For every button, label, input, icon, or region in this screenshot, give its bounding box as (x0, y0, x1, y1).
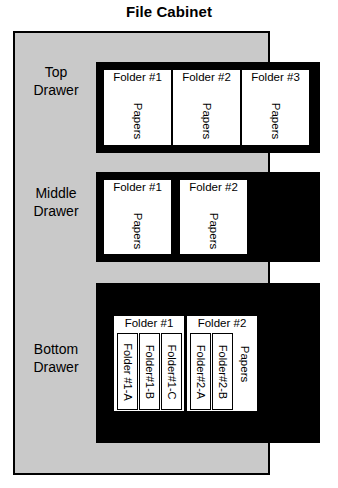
folder-middle-1-papers-label: Papers (132, 198, 144, 256)
folder-bottom-2-title: Folder #2 (187, 317, 257, 329)
folder-top-1-papers-label: Papers (132, 88, 144, 147)
subfolder-bottom-1-a[interactable]: Folder #1-A (117, 333, 138, 410)
subfolder-bottom-2-b[interactable]: Folder#2-B (212, 333, 233, 410)
folder-top-3-papers-label: Papers (270, 88, 282, 147)
drawer-bottom-label: Bottom Drawer (17, 341, 95, 377)
folder-top-3[interactable]: Folder #3 Papers (241, 69, 310, 146)
folder-middle-2-title: Folder #2 (180, 181, 247, 193)
drawer-bottom-label-line1: Bottom (17, 341, 95, 359)
drawer-bottom-interior[interactable]: Folder #1 Folder #1-A Folder#1-B Folder#… (96, 283, 320, 443)
folder-top-2-papers-label: Papers (201, 88, 213, 147)
subfolder-bottom-2-a[interactable]: Folder#2-A (190, 333, 211, 410)
subfolder-bottom-1-a-label: Folder #1-A (122, 343, 134, 400)
page-title: File Cabinet (0, 3, 338, 20)
folder-top-2[interactable]: Folder #2 Papers (172, 69, 241, 146)
drawer-bottom-label-line2: Drawer (17, 359, 95, 377)
drawer-middle-label-line2: Drawer (17, 203, 95, 221)
subfolder-bottom-2-a-label: Folder#2-A (195, 344, 207, 398)
drawer-top-label-line1: Top (17, 64, 95, 82)
drawer-top-label: Top Drawer (17, 64, 95, 100)
subfolder-bottom-1-b-label: Folder#1-B (144, 344, 156, 398)
folder-middle-1-title: Folder #1 (104, 181, 171, 193)
folder-bottom-1-title: Folder #1 (114, 317, 184, 329)
subfolder-bottom-1-b[interactable]: Folder#1-B (139, 333, 160, 410)
folder-top-1-title: Folder #1 (104, 71, 171, 83)
drawer-middle-label: Middle Drawer (17, 185, 95, 221)
drawer-middle-label-line1: Middle (17, 185, 95, 203)
drawer-top-label-line2: Drawer (17, 82, 95, 100)
drawer-top-interior[interactable]: Folder #1 Papers Folder #2 Papers Folder… (96, 62, 320, 153)
subfolder-bottom-2-b-label: Folder#2-B (217, 344, 229, 398)
folder-bottom-1[interactable]: Folder #1 Folder #1-A Folder#1-B Folder#… (113, 315, 185, 412)
folder-top-1[interactable]: Folder #1 Papers (103, 69, 172, 146)
subfolder-bottom-1-c-label: Folder#1-C (166, 344, 178, 399)
folder-middle-2-papers-label: Papers (208, 198, 220, 256)
folder-bottom-2[interactable]: Folder #2 Folder#2-A Folder#2-B Papers (186, 315, 258, 412)
folder-middle-1[interactable]: Folder #1 Papers (103, 179, 172, 255)
folder-bottom-2-papers-label: Papers (239, 345, 251, 381)
folder-middle-2[interactable]: Folder #2 Papers (179, 179, 248, 255)
subfolder-bottom-1-c[interactable]: Folder#1-C (161, 333, 182, 410)
folder-top-2-title: Folder #2 (173, 71, 240, 83)
drawer-middle-interior[interactable]: Folder #1 Papers Folder #2 Papers (96, 172, 320, 262)
folder-top-3-title: Folder #3 (242, 71, 309, 83)
